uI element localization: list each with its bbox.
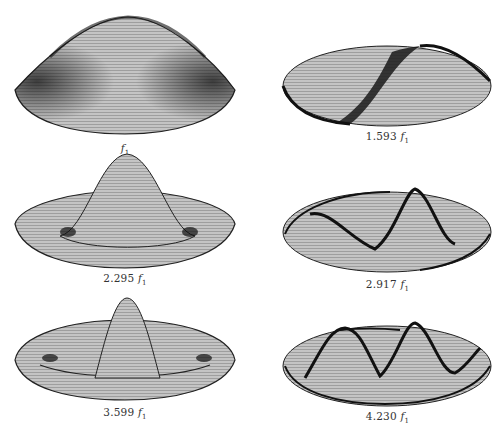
mode-panel-3599: 3.599 f1 [10, 290, 240, 430]
mode-label-1593: 1.593 f1 [280, 130, 495, 145]
membrane-surface-2295 [10, 146, 240, 271]
mode-label-3599: 3.599 f1 [10, 406, 240, 421]
mode-label-2917: 2.917 f1 [280, 278, 495, 293]
membrane-surface-3599 [10, 290, 240, 405]
mode-label-2295: 2.295 f1 [10, 272, 240, 287]
membrane-surface-f1 [10, 12, 240, 137]
mode-panel-2917: 2.917 f1 [280, 184, 495, 304]
membrane-surface-2917 [280, 184, 495, 276]
mode-panel-f1: f1 [10, 12, 240, 162]
membrane-surface-1593 [280, 36, 495, 128]
mode-panel-1593: 1.593 f1 [280, 36, 495, 156]
membrane-surface-4230 [280, 318, 495, 410]
mode-panel-4230: 4.230 f1 [280, 318, 495, 434]
mode-label-4230: 4.230 f1 [280, 410, 495, 425]
mode-panel-2295: 2.295 f1 [10, 146, 240, 296]
